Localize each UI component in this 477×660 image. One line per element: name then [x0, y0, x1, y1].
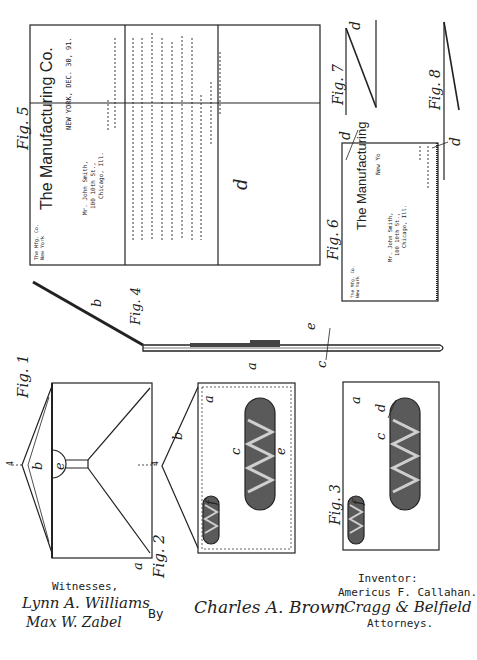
fig5-return-address: The Mfg. Co. New York: [33, 224, 45, 260]
svg-text:Fig. 6: Fig. 6: [325, 219, 341, 261]
fig4-part-e: e: [303, 322, 318, 330]
svg-text:100 10th St.,: 100 10th St.,: [394, 213, 400, 256]
inventor-label: Inventor:: [358, 572, 418, 585]
svg-text:d: d: [347, 21, 363, 30]
svg-text:New York: New York: [39, 236, 45, 260]
by-label: By: [148, 606, 164, 621]
fig1-part-a: a: [130, 562, 145, 570]
fig5-letter-sheet: [30, 25, 320, 265]
fig6-label: Fig. 6: [325, 219, 341, 261]
svg-text:c: c: [314, 360, 329, 368]
fig6-company-name: The Manufacturing: [354, 122, 369, 230]
fig3-part-a: a: [348, 396, 363, 404]
fig5-part-d: d: [230, 178, 251, 190]
fig3-part-d: d: [373, 404, 388, 412]
svg-text:New York: New York: [355, 276, 360, 298]
svg-text:New Yo: New Yo: [374, 153, 381, 175]
fig5-company-name: The Manufacturing Co.: [38, 47, 55, 210]
svg-text:c: c: [373, 432, 388, 440]
svg-text:e: e: [303, 322, 318, 330]
svg-text:Fig. 1: Fig. 1: [14, 354, 32, 399]
svg-text:Fig. 5: Fig. 5: [14, 106, 32, 151]
svg-text:b: b: [89, 299, 104, 307]
svg-text:a: a: [244, 362, 259, 370]
fig6-part-d: d: [337, 131, 353, 140]
svg-text:e: e: [273, 447, 288, 455]
svg-text:Fig. 2: Fig. 2: [150, 534, 168, 579]
svg-text:Mr. John Smith,: Mr. John Smith,: [81, 161, 88, 215]
fig4-part-a: a: [244, 362, 259, 370]
fig3-label: Fig. 3: [327, 484, 343, 526]
fig7-part-d: d: [347, 21, 363, 30]
fig4-label: Fig. 4: [128, 287, 143, 326]
fig8-label: Fig. 8: [427, 69, 443, 111]
fig1-part-e: e: [52, 462, 67, 470]
fig2-section-mark: 4: [151, 461, 160, 466]
svg-text:The Manufacturing: The Manufacturing: [354, 122, 369, 230]
svg-text:NEW YORK, DEC. 30, 91.: NEW YORK, DEC. 30, 91.: [65, 37, 73, 130]
fig2-part-b: b: [170, 432, 185, 440]
fig2-part-c: c: [228, 447, 243, 455]
fig3-part-c: c: [373, 432, 388, 440]
fig1-section-mark: 4: [6, 461, 15, 466]
fig1-label: Fig. 1: [14, 354, 32, 399]
fig6-dateline: New Yo: [374, 153, 381, 175]
attorney-signature: Cragg & Belfield: [344, 598, 472, 616]
fig5-dateline: NEW YORK, DEC. 30, 91.: [65, 37, 73, 130]
fig2-window-envelope: [162, 383, 295, 553]
svg-text:d: d: [337, 131, 353, 140]
fig4-section: [33, 282, 443, 360]
svg-text:Chicago, Ill.: Chicago, Ill.: [401, 205, 408, 248]
fig4-part-c: c: [314, 360, 329, 368]
fig6-return-address: The Mfg. Co. New York: [350, 265, 360, 298]
svg-text:b: b: [30, 462, 45, 470]
svg-text:a: a: [130, 562, 145, 570]
svg-text:e: e: [52, 462, 67, 470]
fig5-addressee: Mr. John Smith, 100 10th St., Chicago, I…: [81, 152, 105, 215]
fig2-part-a: a: [201, 395, 216, 403]
fig8-part-d: d: [447, 137, 463, 146]
svg-text:Fig. 3: Fig. 3: [327, 484, 343, 526]
svg-text:Fig. 8: Fig. 8: [427, 69, 443, 111]
fig2-label: Fig. 2: [150, 534, 168, 579]
svg-text:Fig. 4: Fig. 4: [128, 287, 143, 326]
fig2-part-e: e: [273, 447, 288, 455]
fig5-label: Fig. 5: [14, 106, 32, 151]
inventor-signature: Charles A. Brown: [194, 597, 345, 617]
svg-text:4: 4: [6, 461, 15, 466]
svg-text:Fig. 7: Fig. 7: [330, 64, 346, 106]
witness-signature-2: Max W. Zabel: [26, 614, 122, 630]
fig7-fold-profile: [346, 20, 376, 115]
svg-text:a: a: [201, 395, 216, 403]
svg-text:c: c: [228, 447, 243, 455]
witnesses-label: Witnesses,: [52, 580, 118, 593]
fig4-part-b: b: [89, 299, 104, 307]
svg-text:The Manufacturing Co.: The Manufacturing Co.: [38, 47, 55, 210]
fig7-label: Fig. 7: [330, 64, 346, 106]
witness-signature-1: Lynn A. Williams: [22, 594, 150, 612]
fig1-part-b: b: [30, 462, 45, 470]
svg-text:a: a: [348, 396, 363, 404]
svg-text:Chicago, Ill.: Chicago, Ill.: [97, 152, 105, 199]
attorneys-label: Attorneys.: [367, 617, 433, 630]
svg-text:d: d: [447, 137, 463, 146]
svg-text:b: b: [170, 432, 185, 440]
fig6-addressee: Mr. John Smith, 100 10th St., Chicago, I…: [387, 205, 408, 262]
svg-text:d: d: [230, 178, 251, 190]
svg-text:100 10th St.,: 100 10th St.,: [89, 162, 96, 209]
svg-text:d: d: [373, 404, 388, 412]
fig3-window-envelope: [343, 382, 439, 550]
svg-text:Mr. John Smith,: Mr. John Smith,: [387, 212, 393, 262]
svg-text:4: 4: [151, 461, 160, 466]
